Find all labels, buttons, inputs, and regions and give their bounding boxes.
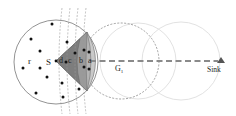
label-sub-c: c: [68, 56, 72, 65]
sensor-node: [83, 66, 86, 69]
label-sub-b: b: [79, 56, 83, 65]
sensor-node: [46, 76, 49, 79]
source-node: [55, 60, 58, 63]
routing-diagram: r S d c b a G1 Sink: [0, 0, 236, 116]
sensor-node: [30, 38, 33, 41]
sensor-node: [22, 67, 25, 70]
sensor-node: [88, 68, 91, 71]
label-sink: Sink: [207, 65, 221, 74]
sensor-node: [78, 88, 81, 91]
sensor-node: [88, 51, 91, 54]
sensor-node: [51, 23, 54, 26]
sensor-node: [74, 52, 77, 55]
sink-icon: [217, 57, 225, 63]
label-grid: G1: [115, 64, 124, 74]
label-sub-a: a: [88, 56, 92, 65]
label-sub-d: d: [59, 56, 63, 65]
sensor-node: [35, 92, 38, 95]
label-radius: r: [28, 56, 31, 66]
sensor-node: [62, 96, 65, 99]
sensor-node: [83, 49, 86, 52]
sensor-node: [61, 82, 64, 85]
label-source: S: [46, 57, 51, 67]
sensor-node: [39, 67, 42, 70]
sensor-node: [39, 50, 42, 53]
sensor-node: [66, 41, 69, 44]
